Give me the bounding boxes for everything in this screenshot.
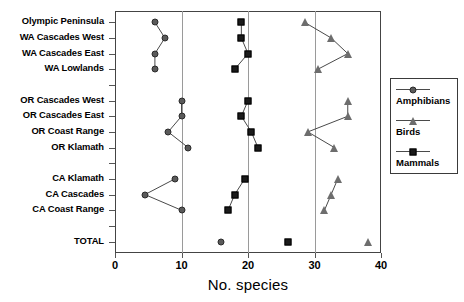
data-point-square: [238, 34, 245, 41]
y-label-or-coast-range: OR Coast Range: [31, 126, 104, 136]
x-axis-title: No. species: [115, 276, 381, 293]
y-label-wa-cascades-east: WA Cascades East: [22, 48, 104, 58]
legend-entry-amphibians[interactable]: Amphibians: [396, 85, 456, 107]
y-label-ca-coast-range: CA Coast Range: [32, 204, 104, 214]
x-tick-label-30: 30: [295, 259, 335, 271]
data-point-square: [245, 50, 252, 57]
data-point-square: [225, 207, 232, 214]
y-label-wa-lowlands: WA Lowlands: [45, 63, 105, 73]
data-point-square: [410, 149, 417, 156]
legend-sample-square: [396, 147, 430, 157]
legend-label-mammals: Mammals: [396, 157, 456, 169]
data-point-square: [254, 144, 261, 151]
data-point-square: [238, 113, 245, 120]
species-richness-chart: Olympic PeninsulaWA Cascades WestWA Casc…: [0, 0, 464, 302]
legend: AmphibiansBirdsMammals: [390, 78, 458, 174]
data-point-square: [248, 128, 255, 135]
y-axis-labels: Olympic PeninsulaWA Cascades WestWA Casc…: [0, 0, 108, 302]
x-tick-20: [248, 253, 249, 258]
legend-sample-circle: [396, 85, 430, 95]
data-point-triangle: [409, 117, 417, 125]
y-label-or-cascades-west: OR Cascades West: [20, 95, 104, 105]
x-tick-0: [115, 253, 116, 258]
data-point-circle: [410, 87, 417, 94]
x-tick-label-20: 20: [228, 259, 268, 271]
legend-label-birds: Birds: [396, 126, 456, 138]
data-point-square: [245, 97, 252, 104]
y-label-olympic-peninsula: Olympic Peninsula: [22, 16, 104, 26]
x-tick-label-40: 40: [361, 259, 401, 271]
y-label-total: TOTAL: [74, 236, 104, 246]
x-tick-label-10: 10: [162, 259, 202, 271]
legend-label-amphibians: Amphibians: [396, 95, 456, 107]
y-label-ca-klamath: CA Klamath: [52, 173, 104, 183]
y-label-wa-cascades-west: WA Cascades West: [20, 32, 104, 42]
data-point-square: [284, 238, 291, 245]
data-point-square: [241, 175, 248, 182]
legend-entry-birds[interactable]: Birds: [396, 116, 456, 138]
series-mammals: [115, 11, 381, 253]
y-label-or-cascades-east: OR Cascades East: [23, 110, 104, 120]
x-tick-10: [182, 253, 183, 258]
data-point-square: [231, 191, 238, 198]
legend-entry-mammals[interactable]: Mammals: [396, 147, 456, 169]
data-point-square: [238, 19, 245, 26]
legend-sample-triangle: [396, 116, 430, 126]
y-label-or-klamath: OR Klamath: [51, 142, 104, 152]
x-tick-label-0: 0: [95, 259, 135, 271]
data-point-square: [231, 66, 238, 73]
y-label-ca-cascades: CA Cascades: [46, 189, 104, 199]
x-tick-30: [315, 253, 316, 258]
x-tick-40: [381, 253, 382, 258]
